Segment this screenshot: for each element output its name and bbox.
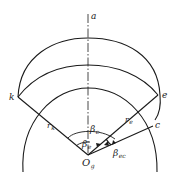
label-e: e	[162, 91, 167, 100]
label-origin: Og	[82, 158, 95, 169]
label-radius-k: rk	[47, 122, 55, 131]
label-radius-e: re	[125, 116, 133, 125]
arrowhead-beta-ec-2	[112, 140, 116, 145]
outer-arc	[18, 38, 160, 120]
label-beta-ec: βec	[113, 149, 126, 159]
label-beta-c: βc	[90, 125, 99, 135]
label-k: k	[9, 93, 14, 102]
label-a: a	[91, 12, 96, 21]
label-beta-e: βe	[82, 140, 91, 150]
diagram-canvas: a k e c Og rk re βc βe βec	[0, 0, 177, 185]
label-c: c	[155, 121, 160, 130]
